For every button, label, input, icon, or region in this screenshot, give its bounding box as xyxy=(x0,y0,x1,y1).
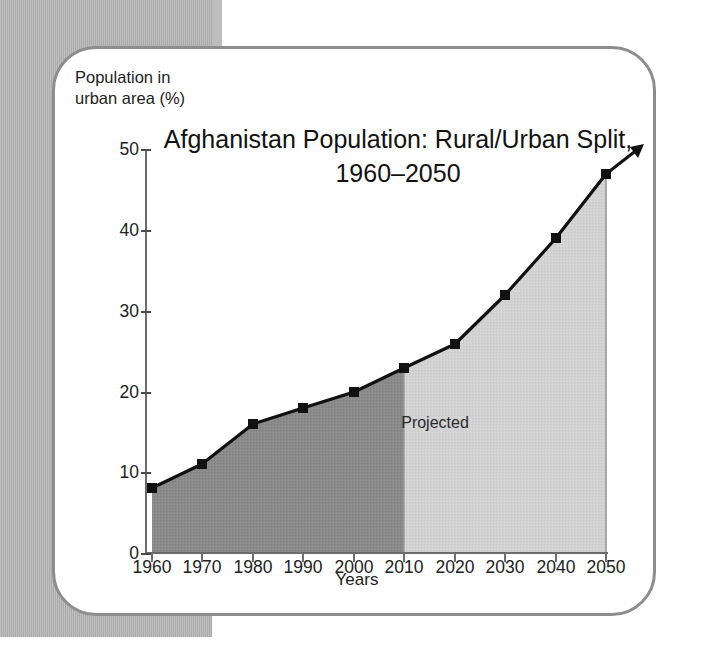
chart-title-line-2: 1960–2050 xyxy=(163,156,633,190)
y-tick-label: 30 xyxy=(93,301,139,322)
x-axis-title: Years xyxy=(55,569,659,590)
y-axis-line xyxy=(145,149,147,553)
data-point-marker xyxy=(399,363,409,373)
data-point-marker xyxy=(298,403,308,413)
projected-area xyxy=(404,174,606,553)
y-tick-mark xyxy=(141,392,151,394)
y-tick-label: 40 xyxy=(93,220,139,241)
y-tick-label: 20 xyxy=(93,382,139,403)
y-tick-mark xyxy=(141,230,151,232)
y-tick-mark xyxy=(141,311,151,313)
y-tick-mark xyxy=(141,472,151,474)
data-point-marker xyxy=(450,339,460,349)
data-point-marker xyxy=(500,290,510,300)
y-tick-mark xyxy=(141,553,151,555)
data-point-marker xyxy=(197,459,207,469)
y-tick-mark xyxy=(141,149,151,151)
data-point-marker xyxy=(147,483,157,493)
x-axis-line xyxy=(146,552,608,554)
plot-area: 50 40 30 20 10 0 1960 1970 1980 1990 200… xyxy=(55,49,659,619)
historical-area xyxy=(152,368,404,553)
data-point-marker xyxy=(551,233,561,243)
y-tick-label: 50 xyxy=(93,139,139,160)
chart-card: 50 40 30 20 10 0 1960 1970 1980 1990 200… xyxy=(52,46,656,616)
data-point-marker xyxy=(248,419,258,429)
chart-title-line-1: Afghanistan Population: Rural/Urban Spli… xyxy=(163,122,633,156)
page-background-strip xyxy=(212,0,222,52)
y-tick-label: 10 xyxy=(93,462,139,483)
data-point-marker xyxy=(349,387,359,397)
y-axis-title: Population in urban area (%) xyxy=(75,67,185,109)
projected-annotation: Projected xyxy=(401,414,469,432)
chart-title: Afghanistan Population: Rural/Urban Spli… xyxy=(163,122,633,190)
y-axis-ticks: 50 40 30 20 10 0 xyxy=(85,49,139,619)
